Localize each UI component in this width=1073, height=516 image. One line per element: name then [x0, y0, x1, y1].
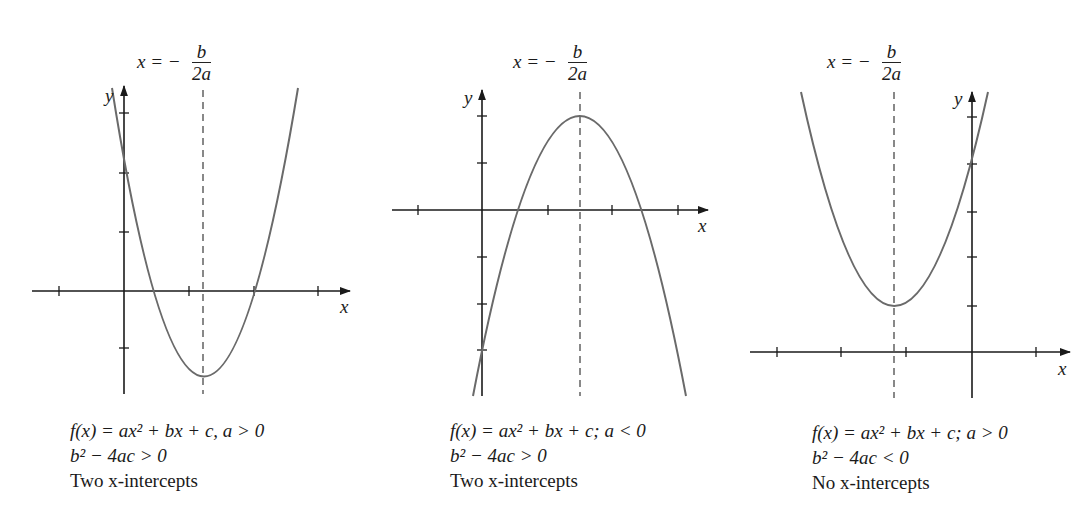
vertex-fraction: b 2a	[882, 42, 901, 83]
fraction-denominator: 2a	[192, 63, 211, 83]
panel-1-caption: f(x) = ax² + bx + c, a > 0 b² − 4ac > 0 …	[70, 418, 264, 493]
vertex-label-lhs: x = −	[137, 52, 181, 71]
panel-3-caption: f(x) = ax² + bx + c; a > 0 b² − 4ac < 0 …	[812, 420, 1008, 495]
vertex-fraction: b 2a	[568, 42, 587, 83]
panel-3-graph: x y	[750, 88, 1070, 398]
caption-discriminant: b² − 4ac > 0	[70, 443, 264, 468]
caption-intercepts: Two x-intercepts	[450, 468, 646, 493]
panel-2-caption: f(x) = ax² + bx + c; a < 0 b² − 4ac > 0 …	[450, 418, 646, 493]
caption-discriminant: b² − 4ac < 0	[812, 445, 1008, 470]
caption-function: f(x) = ax² + bx + c; a < 0	[450, 418, 646, 443]
fraction-denominator: 2a	[568, 63, 587, 83]
parabola-curve	[112, 88, 298, 377]
vertex-fraction: b 2a	[192, 42, 211, 83]
caption-intercepts: Two x-intercepts	[70, 468, 264, 493]
fraction-numerator: b	[192, 42, 211, 63]
caption-function: f(x) = ax² + bx + c, a > 0	[70, 418, 264, 443]
vertex-label-lhs: x = −	[513, 52, 557, 71]
y-axis-label: y	[952, 88, 963, 109]
x-axis-label: x	[697, 215, 707, 236]
fraction-denominator: 2a	[882, 63, 901, 83]
caption-function: f(x) = ax² + bx + c; a > 0	[812, 420, 1008, 445]
caption-discriminant: b² − 4ac > 0	[450, 443, 646, 468]
vertex-label-lhs: x = −	[827, 52, 871, 71]
caption-intercepts: No x-intercepts	[812, 470, 1008, 495]
panel-2-graph: x y	[392, 87, 708, 396]
fraction-numerator: b	[568, 42, 587, 63]
panel-1-graph: x y	[32, 85, 350, 394]
fraction-numerator: b	[882, 42, 901, 63]
x-axis-label: x	[339, 296, 349, 317]
y-axis-label: y	[103, 85, 114, 106]
x-axis-label: x	[1057, 358, 1067, 379]
y-axis-label: y	[462, 87, 473, 108]
